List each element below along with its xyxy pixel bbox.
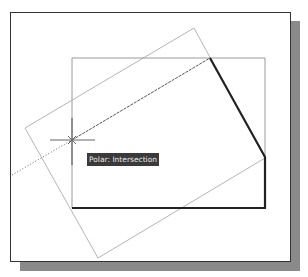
thin-outline[interactable] xyxy=(72,58,210,208)
rotated-rectangle[interactable] xyxy=(25,28,265,258)
osnap-tooltip: Polar: Intersection xyxy=(87,153,159,166)
thick-polyline[interactable] xyxy=(72,58,265,208)
drawing-canvas[interactable] xyxy=(0,0,308,277)
tracking-line xyxy=(72,58,210,140)
